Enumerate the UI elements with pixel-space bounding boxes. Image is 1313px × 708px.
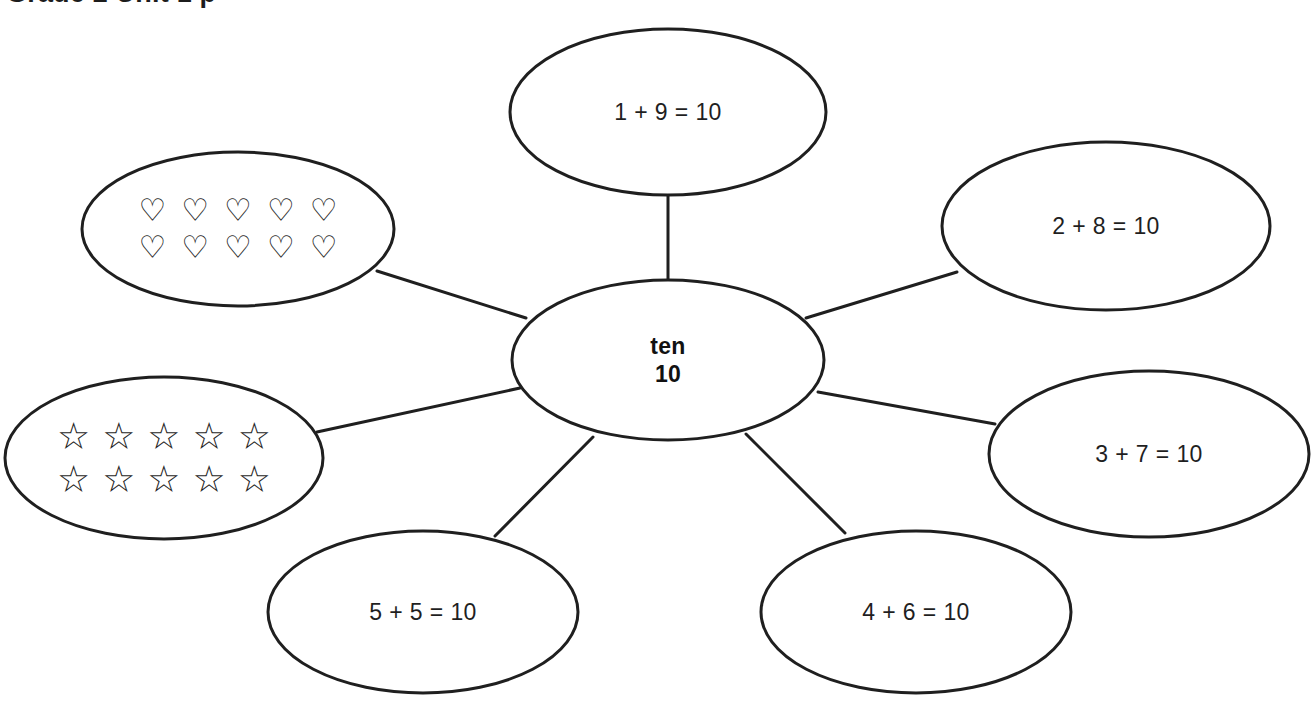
connector-center-to-left	[317, 388, 520, 432]
connector-center-to-upper-left	[377, 271, 526, 318]
worksheet-page: Grade 2 Unit 1 p ten101 + 9 = 102 + 8 = …	[0, 0, 1313, 708]
node-ellipse-upper-right	[942, 142, 1270, 310]
node-ellipse-upper-left	[82, 152, 394, 306]
node-ellipse-lower-left	[268, 531, 578, 693]
concept-map-canvas	[0, 0, 1313, 708]
connector-center-to-lower-right	[746, 434, 845, 533]
node-ellipse-right	[989, 371, 1309, 537]
connector-center-to-upper-right	[806, 272, 957, 318]
ellipse-layer	[5, 29, 1309, 693]
node-ellipse-top	[510, 29, 826, 195]
node-ellipse-lower-right	[761, 531, 1071, 693]
node-ellipse-left	[5, 377, 323, 539]
connector-center-to-lower-left	[495, 437, 593, 536]
connector-center-to-right	[818, 392, 995, 424]
center-node-ellipse	[512, 280, 824, 440]
